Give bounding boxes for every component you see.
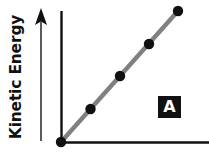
plot-area xyxy=(0,0,209,153)
panel-label-a: A xyxy=(158,96,181,118)
data-point xyxy=(173,6,183,16)
data-point xyxy=(56,137,66,147)
up-arrow-icon xyxy=(35,8,47,141)
chart-figure: Kinetic Energy A xyxy=(0,0,209,153)
data-point xyxy=(115,71,125,81)
data-point xyxy=(85,104,95,114)
data-point xyxy=(144,39,154,49)
